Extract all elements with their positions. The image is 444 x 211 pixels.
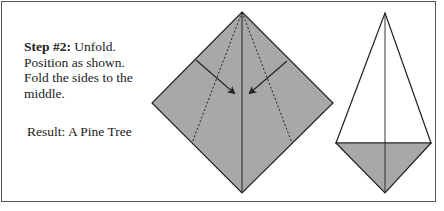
folded-square-diagram	[152, 12, 333, 193]
pine-tree-diagram	[336, 13, 431, 193]
fold-diagrams	[0, 0, 444, 211]
